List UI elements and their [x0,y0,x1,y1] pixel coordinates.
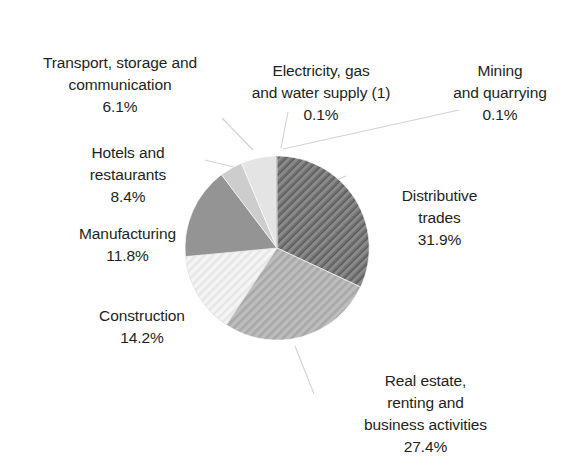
leader-line-realestate [295,346,314,394]
pie-label-manufacturing-percent: 11.8% [30,245,225,267]
pie-label-mining: Mining and quarrying 0.1% [420,38,580,148]
pie-label-realestate-text: Real estate, renting and business activi… [364,372,487,433]
pie-label-electricity-percent: 0.1% [231,104,411,126]
pie-label-mining-text: Mining and quarrying [453,62,547,101]
pie-label-manufacturing-text: Manufacturing [79,225,176,242]
pie-label-construction-text: Construction [99,307,185,324]
pie-label-hotels-text: Hotels and restaurants [90,144,166,183]
pie-label-realestate-percent: 27.4% [318,436,533,458]
pie-label-electricity-text: Electricity, gas and water supply (1) [252,62,390,101]
pie-label-distributive-text: Distributive trades [402,187,477,226]
pie-label-construction: Construction 14.2% [52,283,232,371]
pie-label-realestate: Real estate, renting and business activi… [318,348,533,473]
pie-label-transport-percent: 6.1% [10,96,230,118]
pie-label-manufacturing: Manufacturing 11.8% [30,201,225,289]
pie-label-distributive: Distributive trades 31.9% [352,163,527,273]
pie-label-electricity: Electricity, gas and water supply (1) 0.… [231,38,411,148]
pie-chart-figure: Transport, storage and communication 6.1… [0,0,586,473]
pie-label-construction-percent: 14.2% [52,327,232,349]
pie-label-distributive-percent: 31.9% [352,229,527,251]
pie-label-mining-percent: 0.1% [420,104,580,126]
pie-label-transport-text: Transport, storage and communication [43,54,197,93]
